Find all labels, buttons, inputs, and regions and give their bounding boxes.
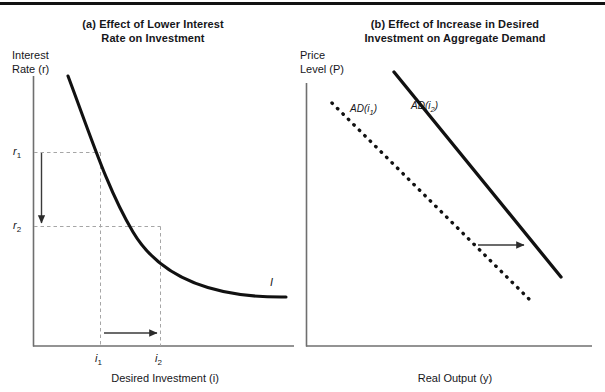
ad-curve-2-solid <box>394 72 561 277</box>
plot-canvas <box>0 0 605 392</box>
panel-a-guides <box>34 153 161 347</box>
economics-figure: (a) Effect of Lower Interest Rate on Inv… <box>0 0 605 392</box>
panel-b-axes <box>306 83 592 347</box>
panel-a-axes <box>33 76 294 347</box>
